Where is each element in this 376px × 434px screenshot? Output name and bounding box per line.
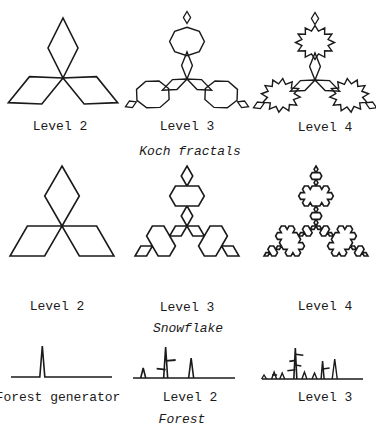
koch-level-3-arm-0-tip	[183, 12, 190, 24]
koch-level-3-arm-1-stem	[162, 79, 187, 90]
branch	[323, 368, 330, 369]
branch	[157, 369, 166, 370]
tree	[312, 373, 317, 379]
koch-level-4-arm-1-tip	[253, 102, 264, 109]
tree	[302, 372, 307, 379]
tree	[294, 348, 297, 379]
forest-generator-label: Forest generator	[0, 390, 120, 405]
koch-level-4-label: Level 4	[298, 120, 353, 135]
koch-level-3-arm-2-stem	[187, 79, 212, 90]
koch-level-3-arm-2-body	[205, 81, 238, 108]
koch-fractals-figures	[8, 12, 376, 113]
koch-level-4-arm-2-body	[330, 79, 369, 113]
snowflake-level-2-label: Level 2	[30, 299, 85, 314]
branch	[166, 360, 176, 361]
koch-level-4-arm-0-tip	[311, 13, 318, 25]
snowflake-caption: Snowflake	[153, 321, 223, 336]
forest-figures	[11, 346, 363, 379]
koch-level-3-arm-1-tip	[125, 101, 136, 108]
snowflake-level-4-label: Level 4	[298, 299, 353, 314]
forest-caption: Forest	[159, 412, 206, 427]
koch-level-4-arm-2-tip	[366, 102, 376, 109]
koch-level-3-label: Level 3	[160, 119, 215, 134]
branch	[287, 370, 295, 371]
branch	[289, 360, 295, 361]
snowflake-level-4	[264, 166, 368, 256]
koch-level-3-arm-1-body	[137, 81, 170, 108]
koch-level-3-arm-2-tip	[238, 101, 249, 108]
snowflake-level-3-label: Level 3	[160, 300, 215, 315]
forest-level-3-label: Level 3	[298, 390, 353, 405]
tree	[141, 368, 146, 378]
koch-caption: Koch fractals	[139, 144, 240, 159]
snowflake-level-2	[10, 166, 114, 256]
tree	[189, 358, 194, 378]
branch	[295, 365, 301, 366]
snowflake-level-3	[135, 166, 239, 256]
koch-level-2-arm-1	[8, 77, 63, 104]
branch	[295, 354, 303, 355]
koch-level-2-label: Level 2	[33, 119, 88, 134]
koch-level-4-arm-1-stem	[290, 80, 315, 91]
koch-level-2-arm-2	[63, 77, 118, 104]
tree	[321, 361, 324, 379]
fractal-canvas	[0, 0, 376, 434]
snowflake-figures	[10, 166, 368, 256]
tree	[332, 359, 337, 379]
tree	[280, 373, 285, 379]
koch-level-2-arm-0	[48, 18, 78, 78]
forest-generator	[11, 346, 112, 377]
koch-level-4-arm-0-stem	[310, 53, 321, 80]
koch-level-4-arm-1-body	[261, 79, 300, 113]
forest-level-2-label: Level 2	[163, 390, 218, 405]
koch-level-4-arm-2-stem	[315, 80, 340, 91]
tree	[164, 347, 168, 378]
